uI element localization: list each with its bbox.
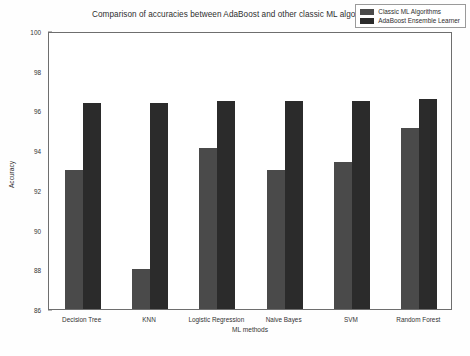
bar: 93.4 [334,162,352,309]
x-axis-tick-label: Logistic Regression [188,316,244,323]
y-axis-tick-label: 96 [34,108,41,115]
y-axis-tick-label: 86 [34,307,41,314]
y-axis-tick-label: 100 [30,29,41,36]
x-axis-label: ML methods [48,326,452,333]
chart-figure: Comparison of accuracies between AdaBoos… [0,0,470,356]
bar: 96.4 [83,103,101,310]
chart-legend: Classic ML AlgorithmsAdaBoost Ensemble L… [355,4,466,28]
plot-area: 9396.48896.494.196.59396.593.496.595.196… [48,32,452,310]
x-axis-tick-label: Random Forest [396,316,440,323]
bar: 93 [65,170,83,309]
y-axis-tick-label: 88 [34,267,41,274]
bar: 96.5 [217,101,235,310]
legend-label: Classic ML Algorithms [378,8,441,15]
bar: 94.1 [199,148,217,309]
y-axis-tick-label: 92 [34,187,41,194]
legend-swatch-icon [360,18,374,24]
legend-item[interactable]: Classic ML Algorithms [360,8,460,15]
bars-layer: 9396.48896.494.196.59396.593.496.595.196… [49,33,451,309]
y-axis-tick-label: 90 [34,227,41,234]
bar: 96.4 [150,103,168,310]
bar: 93 [267,170,285,309]
bar: 88 [132,269,150,309]
bar: 96.5 [285,101,303,310]
y-axis-tick-label: 94 [34,148,41,155]
y-axis-tick-label: 98 [34,68,41,75]
bar: 95.1 [401,128,419,309]
legend-item[interactable]: AdaBoost Ensemble Learner [360,17,460,24]
x-axis-tick-label: Decision Tree [62,316,101,323]
y-axis-label: Accuracy [8,140,15,210]
bar: 96.5 [352,101,370,310]
x-axis-tick-label: Naive Bayes [266,316,302,323]
x-axis-tick-label: KNN [142,316,156,323]
legend-swatch-icon [360,9,374,15]
bar: 96.6 [419,99,437,309]
x-axis-tick-label: SVM [344,316,358,323]
legend-label: AdaBoost Ensemble Learner [378,17,460,24]
